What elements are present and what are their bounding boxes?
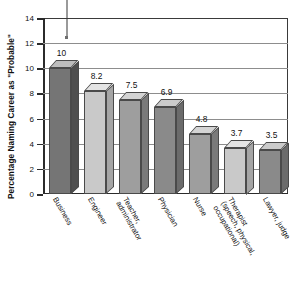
bar[interactable]: 7.5: [119, 100, 141, 194]
bar-front-face: [259, 150, 281, 194]
x-axis-label: Nurse: [191, 196, 208, 218]
bar[interactable]: 4.8: [189, 134, 211, 194]
y-tick-label: 12: [25, 39, 34, 48]
x-axis-label-line: Nurse: [191, 196, 209, 218]
bar-front-face: [189, 134, 211, 194]
bar-series: 108.27.56.94.83.73.5: [43, 18, 288, 194]
bar-side-face: [246, 140, 254, 194]
x-axis-label-line: Business: [51, 196, 74, 227]
bar-value-label: 3.7: [226, 128, 248, 138]
y-tick-label: 6: [30, 114, 34, 123]
bar-value-label: 7.5: [121, 80, 143, 90]
bar[interactable]: 8.2: [84, 91, 106, 194]
y-tick-label: 0: [30, 190, 34, 199]
x-axis-label-line: Physician: [156, 196, 180, 229]
x-axis-label: Physician: [156, 196, 180, 228]
x-axis-label: Therapist(speech, physical,occupational): [212, 196, 264, 261]
x-axis-label-line: Engineer: [86, 196, 109, 227]
bar-chart: Percentage Naming Career as "Probable" 0…: [0, 0, 297, 288]
bar[interactable]: 6.9: [154, 107, 176, 194]
bar-value-label: 4.8: [191, 114, 213, 124]
bar-side-face: [176, 100, 184, 194]
bar-side-face: [71, 61, 79, 194]
bar-value-label: 3.5: [261, 130, 283, 140]
x-axis-label: Engineer: [86, 196, 108, 227]
y-tick-label: 8: [30, 89, 34, 98]
x-axis-label: Business: [51, 196, 74, 227]
x-axis-category-labels: BusinessEngineerTeacher,administratorPhy…: [43, 196, 293, 288]
plot-area: 02468101214 108.27.56.94.83.73.5: [43, 18, 288, 194]
x-axis-label: Teacher,administrator: [114, 196, 151, 242]
bar-front-face: [49, 68, 71, 194]
bar-front-face: [84, 91, 106, 194]
bar[interactable]: 3.7: [224, 148, 246, 195]
bar-side-face: [141, 93, 149, 194]
bar-side-face: [106, 84, 114, 194]
bar-value-label: 6.9: [156, 87, 178, 97]
bar-side-face: [211, 126, 219, 194]
y-tick-label: 4: [30, 139, 34, 148]
y-axis-title: Percentage Naming Career as "Probable": [7, 22, 16, 212]
bar-value-label: 8.2: [86, 71, 108, 81]
y-tick-label: 14: [25, 14, 34, 23]
bar[interactable]: 10: [49, 68, 71, 194]
bar-front-face: [224, 148, 246, 195]
bar-side-face: [281, 143, 289, 194]
bar-front-face: [119, 100, 141, 194]
x-axis-label-line: Lawyer, judge: [261, 196, 292, 241]
y-tick-label: 10: [25, 64, 34, 73]
y-tick-label: 2: [30, 164, 34, 173]
bar-front-face: [154, 107, 176, 194]
bar-value-label: 10: [51, 48, 73, 58]
bar[interactable]: 3.5: [259, 150, 281, 194]
x-axis-label: Lawyer, judge: [261, 196, 292, 241]
